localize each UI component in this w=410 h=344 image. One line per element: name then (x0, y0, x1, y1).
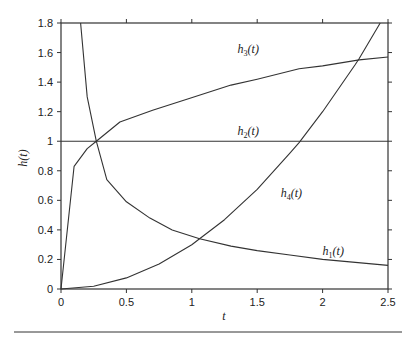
x-tick-label: 0 (58, 296, 64, 308)
y-tick-label: 0.4 (38, 224, 53, 236)
y-tick-label: 1.6 (38, 47, 53, 59)
y-tick-label: 0 (47, 283, 53, 295)
curve-labels: h3(t)h2(t)h4(t)h1(t) (238, 42, 344, 260)
y-tick-label: 1.2 (38, 106, 53, 118)
hazard-function-chart: 00.511.522.5 00.20.40.60.811.21.41.61.8 … (0, 0, 410, 344)
x-tick-label: 0.5 (119, 296, 134, 308)
y-axis-title: h(t) (16, 149, 30, 166)
curve-label: h4(t) (281, 186, 302, 202)
curve-h1t (81, 23, 388, 265)
curve-label: h3(t) (238, 42, 259, 58)
x-tick-label: 1.5 (250, 296, 265, 308)
y-tick-label: 1.4 (38, 76, 53, 88)
y-tick-label: 1 (47, 135, 53, 147)
x-axis-title: t (222, 309, 226, 323)
y-tick-label: 0.6 (38, 194, 53, 206)
x-tick-label: 2.5 (380, 296, 395, 308)
x-tick-label: 1 (189, 296, 195, 308)
x-tick-label: 2 (320, 296, 326, 308)
y-tick-label: 0.8 (38, 165, 53, 177)
curve-label: h2(t) (238, 124, 259, 140)
y-tick-label: 1.8 (38, 17, 53, 29)
curve-label: h1(t) (323, 244, 344, 260)
y-tick-label: 0.2 (38, 253, 53, 265)
